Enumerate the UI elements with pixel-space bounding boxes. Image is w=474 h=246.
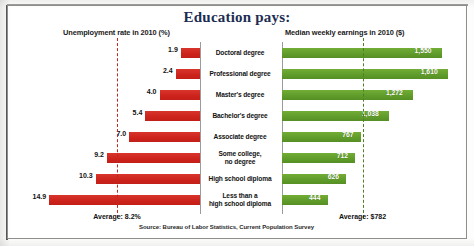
earnings-value-label: 1,610 bbox=[421, 68, 438, 75]
unemployment-bar bbox=[176, 69, 200, 79]
earnings-cell: 1,038 bbox=[282, 105, 463, 126]
earnings-cell: 626 bbox=[282, 168, 463, 189]
category-label: Bachelor's degree bbox=[201, 105, 279, 126]
earnings-value-label: 767 bbox=[342, 131, 353, 138]
unemployment-value-label: 10.3 bbox=[79, 172, 93, 179]
unemployment-bar bbox=[160, 90, 201, 100]
chart-row: 1.9Doctoral degree1,550 bbox=[11, 42, 463, 63]
unemployment-value-label: 9.2 bbox=[94, 151, 104, 158]
unemployment-bar bbox=[181, 48, 200, 58]
earnings-cell: 1,272 bbox=[282, 84, 463, 105]
chart-row: 9.2Some college,no degree712 bbox=[11, 147, 463, 168]
unemployment-cell: 2.4 bbox=[11, 63, 200, 84]
unemployment-bar bbox=[96, 174, 200, 184]
earnings-value-label: 626 bbox=[328, 173, 339, 180]
unemployment-cell: 14.9 bbox=[11, 189, 200, 210]
earnings-cell: 444 bbox=[282, 189, 463, 210]
chart-row: 4.0Master's degree1,272 bbox=[11, 84, 463, 105]
earnings-cell: 767 bbox=[282, 126, 463, 147]
right-average-line bbox=[363, 38, 364, 218]
earnings-cell: 1,610 bbox=[282, 63, 463, 84]
left-average-label: Average: 8.2% bbox=[93, 213, 141, 220]
page-title: Education pays: bbox=[11, 9, 463, 26]
earnings-value-label: 1,038 bbox=[362, 110, 379, 117]
earnings-cell: 712 bbox=[282, 147, 463, 168]
unemployment-value-label: 1.9 bbox=[168, 46, 178, 53]
category-label: Less than ahigh school diploma bbox=[201, 189, 279, 210]
chart-row: 7.0Associate degree767 bbox=[11, 126, 463, 147]
earnings-value-label: 712 bbox=[337, 152, 348, 159]
chart-row: 2.4Professional degree1,610 bbox=[11, 63, 463, 84]
unemployment-cell: 10.3 bbox=[11, 168, 200, 189]
chart-rows: 1.9Doctoral degree1,5502.4Professional d… bbox=[11, 42, 463, 210]
category-label: Associate degree bbox=[201, 126, 279, 147]
unemployment-value-label: 4.0 bbox=[147, 88, 157, 95]
category-label: High school diploma bbox=[201, 168, 279, 189]
earnings-value-label: 1,550 bbox=[415, 47, 432, 54]
chart-row: 5.4Bachelor's degree1,038 bbox=[11, 105, 463, 126]
earnings-cell: 1,550 bbox=[282, 42, 463, 63]
right-column-header: Median weekly earnings in 2010 ($) bbox=[285, 28, 404, 37]
category-label: Some college,no degree bbox=[201, 147, 279, 168]
left-average-line bbox=[117, 38, 118, 218]
unemployment-bar bbox=[129, 132, 200, 142]
category-label: Doctoral degree bbox=[201, 42, 279, 63]
earnings-value-label: 444 bbox=[309, 194, 320, 201]
unemployment-bar bbox=[107, 153, 200, 163]
unemployment-bar bbox=[49, 195, 200, 205]
unemployment-cell: 5.4 bbox=[11, 105, 200, 126]
unemployment-cell: 7.0 bbox=[11, 126, 200, 147]
unemployment-cell: 9.2 bbox=[11, 147, 200, 168]
unemployment-cell: 1.9 bbox=[11, 42, 200, 63]
education-pays-infographic: Education pays: Unemployment rate in 201… bbox=[0, 0, 474, 246]
earnings-bar bbox=[282, 195, 328, 205]
category-label: Master's degree bbox=[201, 84, 279, 105]
earnings-value-label: 1,272 bbox=[386, 89, 403, 96]
unemployment-bar bbox=[145, 111, 200, 121]
unemployment-value-label: 2.4 bbox=[163, 67, 173, 74]
unemployment-value-label: 5.4 bbox=[133, 109, 143, 116]
source-note: Source: Bureau of Labor Statistics, Curr… bbox=[139, 224, 314, 230]
chart-plot-area: Education pays: Unemployment rate in 201… bbox=[11, 8, 463, 236]
unemployment-value-label: 14.9 bbox=[32, 193, 46, 200]
right-average-label: Average: $782 bbox=[339, 213, 386, 220]
chart-row: 10.3High school diploma626 bbox=[11, 168, 463, 189]
chart-row: 14.9Less than ahigh school diploma444 bbox=[11, 189, 463, 210]
unemployment-cell: 4.0 bbox=[11, 84, 200, 105]
category-label: Professional degree bbox=[201, 63, 279, 84]
left-column-header: Unemployment rate in 2010 (%) bbox=[63, 28, 170, 37]
